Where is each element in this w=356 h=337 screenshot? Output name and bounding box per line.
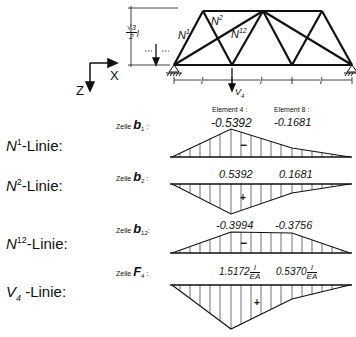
zeile-b2: Zeile b2 : [116, 170, 148, 184]
value-n1-element4: -0.5392 [211, 117, 252, 129]
zeile-b12: Zeile b12: [116, 222, 150, 236]
span-label-3: l [320, 77, 322, 86]
zeile-f4: Zeile F4 : [116, 265, 148, 279]
axis-x-label: X [110, 69, 119, 82]
sign-n12: − [240, 237, 247, 249]
load-label-v4: V4 [235, 88, 244, 99]
span-label-1: l [201, 77, 203, 86]
header-element-4: Element 4 : [212, 106, 247, 113]
value-n12-element8: -0.3756 [275, 220, 312, 231]
span-label-2: l [260, 77, 262, 86]
influence-line-v4 [170, 285, 352, 329]
member-label-n1: N1 [178, 28, 190, 41]
height-label: √32l [126, 24, 139, 41]
row-label-n1: N1-Linie: [6, 138, 63, 153]
truss [174, 11, 352, 65]
value-v4-element8: 0.5370lEA [276, 264, 317, 281]
row-label-n12: N12-Linie: [6, 236, 68, 251]
influence-line-n1 [170, 129, 352, 157]
axis-z-label: Z [76, 84, 84, 97]
value-n1-element8: -0.1681 [274, 117, 311, 128]
value-n12-element4: -0.3994 [216, 220, 253, 231]
value-v4-element4: 1.5172lEA [219, 264, 260, 281]
header-element-8: Element 8 : [274, 106, 309, 113]
influence-line-n2 [170, 184, 352, 214]
zeile-b1: Zeile b1 : [116, 118, 148, 132]
sign-v4: + [254, 298, 260, 308]
support-icon [166, 65, 356, 76]
value-n2-element8: 0.1681 [279, 169, 313, 180]
member-label-n2: N2 [211, 14, 223, 27]
influence-line-n12 [170, 232, 352, 253]
value-n2-element4: 0.5392 [219, 169, 253, 180]
row-label-v4: V4 -Linie: [6, 284, 66, 303]
row-label-n2: N2-Linie: [6, 178, 63, 193]
sign-n2: + [240, 193, 246, 203]
member-label-n12: N12 [231, 27, 247, 40]
sign-n1: − [240, 139, 247, 151]
